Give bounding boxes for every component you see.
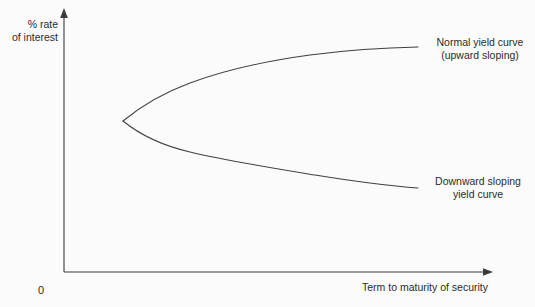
x-axis-arrowhead-icon bbox=[483, 268, 493, 276]
downward-sloping-yield-curve-label: Downward sloping yield curve bbox=[424, 175, 532, 200]
normal-yield-curve-label: Normal yield curve (upward sloping) bbox=[428, 36, 532, 61]
y-axis-arrowhead-icon bbox=[60, 8, 68, 18]
y-axis-label: % rate of interest bbox=[0, 18, 58, 43]
y-axis-label-line-1: % rate bbox=[0, 18, 58, 31]
normal-yield-curve-label-line-1: Normal yield curve bbox=[428, 36, 532, 49]
yield-curve-diagram: % rate of interest Term to maturity of s… bbox=[0, 0, 535, 307]
downward-sloping-yield-curve-label-line-1: Downward sloping bbox=[424, 175, 532, 188]
downward-sloping-yield-curve-path bbox=[123, 121, 418, 188]
normal-yield-curve-label-line-2: (upward sloping) bbox=[428, 49, 532, 62]
downward-sloping-yield-curve-label-line-2: yield curve bbox=[424, 188, 532, 201]
y-axis-label-line-2: of interest bbox=[0, 31, 58, 44]
normal-yield-curve-path bbox=[123, 47, 418, 121]
x-axis-label: Term to maturity of security bbox=[362, 281, 488, 294]
origin-label: 0 bbox=[38, 284, 44, 297]
